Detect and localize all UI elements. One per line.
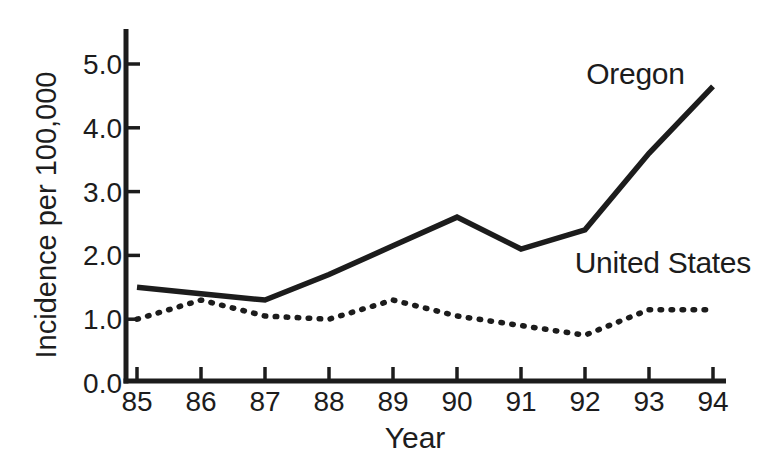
x-tick-label: 93 (633, 386, 664, 417)
x-axis-title: Year (385, 423, 446, 453)
x-tick-label: 87 (249, 386, 280, 417)
y-tick-label: 1.0 (83, 304, 122, 335)
x-tick-label: 89 (377, 386, 408, 417)
x-tick-label: 88 (313, 386, 344, 417)
incidence-line-chart-figure: 858687888990919293940.01.02.03.04.05.0Or… (0, 0, 776, 472)
x-tick-label: 91 (505, 386, 536, 417)
x-tick-label: 94 (697, 386, 728, 417)
y-tick-label: 5.0 (83, 49, 122, 80)
y-axis-title: Incidence per 100,000 (32, 72, 61, 359)
chart-canvas: 858687888990919293940.01.02.03.04.05.0Or… (0, 0, 776, 472)
series-label-oregon: Oregon (586, 57, 684, 90)
y-tick-label: 4.0 (83, 113, 122, 144)
united-states-line (137, 300, 713, 335)
series-label-united-states: United States (575, 246, 751, 279)
y-tick-label: 0.0 (83, 368, 122, 399)
x-tick-label: 90 (441, 386, 472, 417)
y-tick-label: 3.0 (83, 177, 122, 208)
x-tick-label: 85 (121, 386, 152, 417)
x-tick-label: 92 (569, 386, 600, 417)
y-tick-label: 2.0 (83, 240, 122, 271)
x-tick-label: 86 (185, 386, 216, 417)
